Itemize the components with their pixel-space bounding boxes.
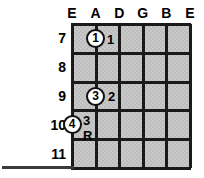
fret-label-9: 9 xyxy=(26,89,66,103)
finger-marker-4-label-degree: 3 xyxy=(83,114,90,127)
string-line-e-low xyxy=(71,24,74,168)
string-line-g xyxy=(142,24,145,168)
fret-line-9-10 xyxy=(71,109,191,112)
string-header-e-high: E xyxy=(181,5,199,21)
finger-marker-4[interactable]: 4 xyxy=(63,115,82,134)
fret-label-7: 7 xyxy=(26,31,66,45)
finger-marker-1-label: 1 xyxy=(107,33,114,46)
finger-marker-1[interactable]: 1 xyxy=(86,29,105,48)
fret-line-bottom xyxy=(71,167,191,170)
fret-label-10: 10 xyxy=(26,118,66,132)
string-header-b: B xyxy=(157,5,175,21)
string-line-e-high xyxy=(189,24,192,168)
fretboard-diagram: E A D G B E 7 8 9 10 11 1 1 3 2 xyxy=(0,0,204,178)
fretboard-grid: 1 1 3 2 4 3 R xyxy=(72,24,190,168)
fret-line-top xyxy=(71,23,191,26)
finger-marker-3-label: 2 xyxy=(108,90,115,103)
fret-label-8: 8 xyxy=(26,60,66,74)
string-line-b xyxy=(165,24,168,168)
finger-marker-3[interactable]: 3 xyxy=(86,87,105,106)
fret-number-column: 7 8 9 10 11 xyxy=(0,0,72,178)
string-header-a: A xyxy=(87,5,105,21)
fret-line-8-9 xyxy=(71,81,191,84)
fret-label-11: 11 xyxy=(26,147,66,161)
string-header-d: D xyxy=(110,5,128,21)
string-line-d xyxy=(118,24,121,168)
fret-line-7-8 xyxy=(71,52,191,55)
finger-marker-4-label-root: R xyxy=(83,129,92,142)
string-header-g: G xyxy=(134,5,152,21)
baseline-extension xyxy=(2,166,74,169)
